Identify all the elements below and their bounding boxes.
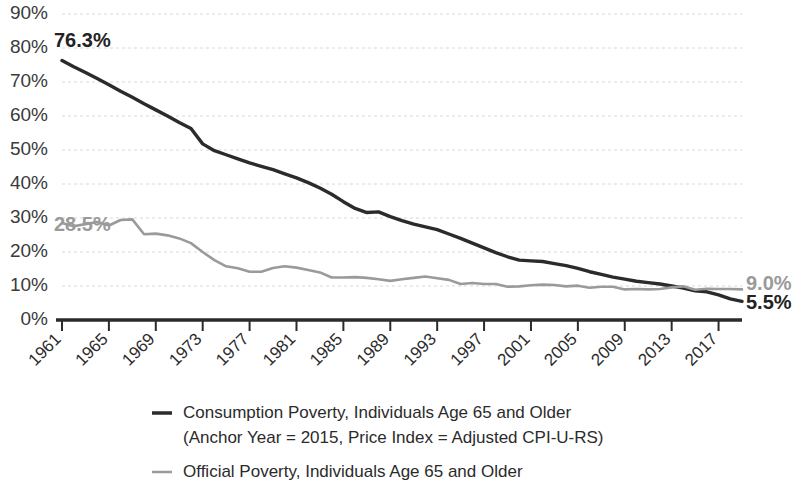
y-axis-tick-label: 50% <box>10 138 48 159</box>
gridlines <box>62 14 742 286</box>
x-axis-tick-label: 1985 <box>306 329 346 369</box>
series-line-consumption-poverty <box>62 61 742 302</box>
x-axis-tick-label: 1981 <box>259 329 299 369</box>
y-axis-tick-label: 20% <box>10 240 48 261</box>
x-axis-tick-label: 2017 <box>681 329 721 369</box>
y-axis-tick-label: 0% <box>21 308 49 329</box>
data-series <box>62 61 742 302</box>
annotation-285: 28.5% <box>54 213 111 235</box>
y-axis-tick-labels: 0%10%20%30%40%50%60%70%80%90% <box>10 2 48 329</box>
series-line-official-poverty <box>62 219 742 289</box>
x-axis-tick-label: 2001 <box>494 329 534 369</box>
x-axis-tick-label: 2009 <box>587 329 627 369</box>
poverty-line-chart: 0%10%20%30%40%50%60%70%80%90% 1961196519… <box>0 0 792 491</box>
annotation-55: 5.5% <box>746 291 792 313</box>
y-axis-tick-label: 30% <box>10 206 48 227</box>
y-axis-tick-label: 80% <box>10 36 48 57</box>
annotation-90: 9.0% <box>746 272 792 294</box>
annotation-763: 76.3% <box>54 29 111 51</box>
y-axis-tick-label: 10% <box>10 274 48 295</box>
x-axis-tick-label: 1969 <box>118 329 158 369</box>
x-axis-tick-label: 1993 <box>400 329 440 369</box>
chart-legend: Consumption Poverty, Individuals Age 65 … <box>152 403 604 481</box>
x-axis-tick-label: 1965 <box>72 329 112 369</box>
x-axis-tick-label: 2005 <box>541 329 581 369</box>
y-axis-tick-label: 90% <box>10 2 48 23</box>
x-axis-tick-label: 1961 <box>25 329 65 369</box>
y-axis-tick-label: 70% <box>10 70 48 91</box>
x-axis-tick-labels: 1961196519691973197719811985198919931997… <box>25 329 722 369</box>
chart-canvas: 0%10%20%30%40%50%60%70%80%90% 1961196519… <box>0 0 792 491</box>
x-axis-tick-label: 1973 <box>165 329 205 369</box>
legend-label: Official Poverty, Individuals Age 65 and… <box>183 462 523 481</box>
x-axis-tick-label: 1997 <box>447 329 487 369</box>
x-axis-tick-label: 2013 <box>634 329 674 369</box>
legend-label: (Anchor Year = 2015, Price Index = Adjus… <box>183 428 604 447</box>
legend-label: Consumption Poverty, Individuals Age 65 … <box>183 403 571 422</box>
value-annotations: 76.3%28.5%5.5%9.0% <box>54 29 792 314</box>
x-axis <box>56 320 742 331</box>
y-axis-tick-label: 60% <box>10 104 48 125</box>
x-axis-tick-label: 1977 <box>212 329 252 369</box>
x-axis-tick-label: 1989 <box>353 329 393 369</box>
y-axis-tick-label: 40% <box>10 172 48 193</box>
